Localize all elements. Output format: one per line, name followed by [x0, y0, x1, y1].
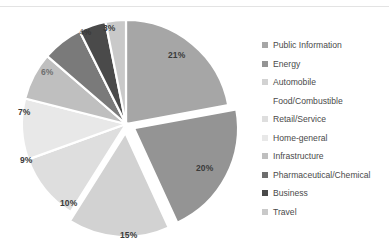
legend-item[interactable]: Infrastructure	[262, 149, 389, 168]
legend-item[interactable]: Business	[262, 186, 389, 205]
slice-percentage-label: 4%	[79, 27, 92, 37]
pie-slices-group	[22, 20, 238, 237]
pie-chart-screenshot: 21%20%15%10%9%7%6%4%3% Public Informatio…	[0, 0, 389, 245]
legend-item-label: Energy	[273, 57, 300, 71]
legend-item[interactable]: Home-general	[262, 131, 389, 150]
legend-item-label: Automobile	[273, 75, 316, 89]
legend-item-label: Pharmaceutical/Chemical	[273, 168, 370, 182]
legend-item[interactable]: Retail/Service	[262, 112, 389, 131]
legend-swatch-icon	[262, 79, 268, 85]
legend-item-label: Home-general	[273, 131, 327, 145]
slice-percentage-label: 9%	[20, 155, 33, 165]
legend-item[interactable]: Travel	[262, 205, 389, 224]
slice-percentage-label: 15%	[120, 230, 137, 240]
pie-chart-svg	[0, 0, 250, 245]
pie-slice	[126, 20, 228, 124]
legend-swatch-icon	[262, 42, 268, 48]
legend-swatch-icon	[262, 116, 268, 122]
slice-percentage-label: 6%	[41, 67, 54, 77]
legend-swatch-icon	[262, 172, 268, 178]
slice-percentage-label: 21%	[168, 50, 185, 60]
legend-item-label: Public Information	[273, 38, 342, 52]
chart-legend: Public InformationEnergyAutomobileFood/C…	[262, 38, 389, 223]
legend-swatch-icon	[262, 135, 268, 141]
legend-swatch-icon	[262, 190, 268, 196]
legend-item[interactable]: Public Information	[262, 38, 389, 57]
legend-item-label: Business	[273, 186, 308, 200]
slice-percentage-label: 20%	[196, 163, 213, 173]
pie-chart-area: 21%20%15%10%9%7%6%4%3%	[0, 0, 250, 245]
legend-item-label: Retail/Service	[273, 112, 326, 126]
legend-item-label: Infrastructure	[273, 149, 324, 163]
legend-item[interactable]: Energy	[262, 57, 389, 76]
legend-item[interactable]: Food/Combustible	[262, 94, 389, 113]
legend-item-label: Food/Combustible	[273, 94, 343, 108]
legend-item-label: Travel	[273, 205, 297, 219]
legend-swatch-icon	[262, 209, 268, 215]
legend-item[interactable]: Automobile	[262, 75, 389, 94]
legend-swatch-icon	[262, 98, 268, 104]
slice-percentage-label: 3%	[103, 23, 116, 33]
slice-percentage-label: 10%	[60, 198, 77, 208]
legend-swatch-icon	[262, 153, 268, 159]
slice-percentage-label: 7%	[18, 107, 31, 117]
legend-item[interactable]: Pharmaceutical/Chemical	[262, 168, 389, 187]
legend-swatch-icon	[262, 61, 268, 67]
